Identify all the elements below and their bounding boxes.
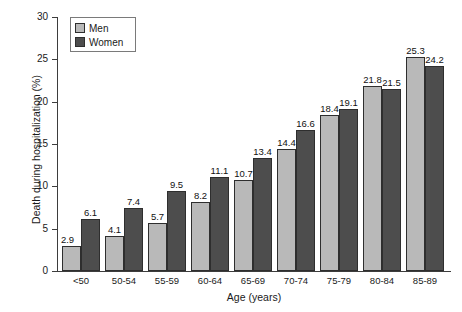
y-tick-label: 25 <box>8 54 48 64</box>
bar-group: 4.17.4 <box>105 17 143 271</box>
bar-women[interactable] <box>382 89 401 271</box>
bar-group: 25.324.2 <box>406 17 444 271</box>
legend-swatch-men-icon <box>75 23 85 33</box>
bar-men[interactable] <box>406 57 425 271</box>
bar-value-label: 13.4 <box>251 147 275 157</box>
bar-women[interactable] <box>81 219 100 271</box>
bar-men[interactable] <box>234 180 253 271</box>
bar-chart: Death during hospitalization (%) Age (ye… <box>0 0 462 312</box>
bar-men[interactable] <box>62 246 81 271</box>
bar-women[interactable] <box>124 208 143 271</box>
bar-men[interactable] <box>148 223 167 271</box>
bar-value-label: 24.2 <box>423 55 447 65</box>
bar-value-label: 10.7 <box>232 169 256 179</box>
bar-group: 18.419.1 <box>320 17 358 271</box>
bar-value-label: 5.7 <box>146 212 170 222</box>
legend: Men Women <box>70 17 136 52</box>
bar-women[interactable] <box>253 158 272 271</box>
bar-group: 5.79.5 <box>148 17 186 271</box>
bar-men[interactable] <box>277 149 296 271</box>
bar-women[interactable] <box>339 109 358 271</box>
bar-group: 21.821.5 <box>363 17 401 271</box>
y-tick-label: 5 <box>8 224 48 234</box>
bar-women[interactable] <box>296 130 315 271</box>
bar-value-label: 11.1 <box>208 166 232 176</box>
bar-men[interactable] <box>363 86 382 271</box>
bar-group: 14.416.6 <box>277 17 315 271</box>
legend-label-women: Women <box>89 37 123 48</box>
x-axis-line <box>57 271 451 272</box>
bar-value-label: 14.4 <box>275 138 299 148</box>
bar-group: 2.96.1 <box>62 17 100 271</box>
bar-value-label: 7.4 <box>122 197 146 207</box>
y-tick-label: 20 <box>8 97 48 107</box>
legend-item-women[interactable]: Women <box>75 35 131 49</box>
bar-value-label: 19.1 <box>337 98 361 108</box>
bar-value-label: 9.5 <box>165 180 189 190</box>
y-tick-10 <box>52 186 57 187</box>
x-category-label: 85-89 <box>395 275 455 286</box>
bar-value-label: 4.1 <box>103 225 127 235</box>
plot-area: 2.96.14.17.45.79.58.211.110.713.414.416.… <box>58 17 451 271</box>
y-tick-label: 10 <box>8 181 48 191</box>
y-tick-label: 0 <box>8 266 48 276</box>
bar-value-label: 8.2 <box>189 191 213 201</box>
bar-men[interactable] <box>191 202 210 271</box>
bar-group: 8.211.1 <box>191 17 229 271</box>
y-tick-25 <box>52 59 57 60</box>
legend-swatch-women-icon <box>75 37 85 47</box>
bar-women[interactable] <box>425 66 444 271</box>
bar-value-label: 6.1 <box>79 208 103 218</box>
y-tick-0 <box>52 271 57 272</box>
bar-women[interactable] <box>167 191 186 271</box>
y-tick-30 <box>52 17 57 18</box>
y-tick-20 <box>52 102 57 103</box>
x-axis-title: Age (years) <box>57 292 451 303</box>
y-tick-5 <box>52 229 57 230</box>
bar-value-label: 21.5 <box>380 78 404 88</box>
y-tick-15 <box>52 144 57 145</box>
bar-group: 10.713.4 <box>234 17 272 271</box>
bar-women[interactable] <box>210 177 229 271</box>
bar-men[interactable] <box>105 236 124 271</box>
y-tick-label: 30 <box>8 12 48 22</box>
y-tick-label: 15 <box>8 139 48 149</box>
bar-value-label: 16.6 <box>294 119 318 129</box>
legend-item-men[interactable]: Men <box>75 21 131 35</box>
legend-label-men: Men <box>89 23 108 34</box>
bar-value-label: 2.9 <box>56 235 80 245</box>
bar-men[interactable] <box>320 115 339 271</box>
